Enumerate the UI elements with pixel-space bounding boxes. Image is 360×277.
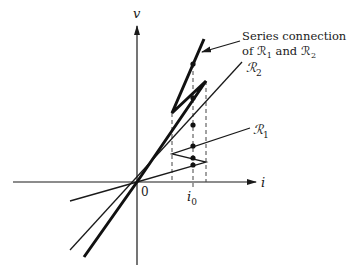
series-connection-diagram: v i 0 i0 ℛ2 ℛ1 Series connection of ℛ1 a… — [0, 0, 360, 277]
series-annotation-line2: of ℛ1 and ℛ2 — [242, 44, 316, 60]
series-annotation-line1: Series connection — [242, 29, 347, 43]
annotation-arrow — [202, 41, 240, 52]
v-axis-label: v — [133, 6, 141, 21]
series-curve — [84, 39, 206, 257]
i0-label: i0 — [187, 189, 197, 207]
i-axis-label: i — [261, 175, 265, 190]
point-r1-upper — [190, 143, 195, 148]
r1-label: ℛ1 — [253, 122, 269, 140]
point-series-lower — [190, 95, 195, 100]
r1-curve — [70, 128, 250, 201]
point-r1-lower — [190, 162, 195, 167]
point-r1-middle — [190, 155, 195, 160]
r2-label: ℛ2 — [246, 60, 262, 78]
point-r2 — [190, 122, 195, 127]
origin-label: 0 — [141, 185, 149, 199]
point-series-upper — [190, 61, 195, 66]
